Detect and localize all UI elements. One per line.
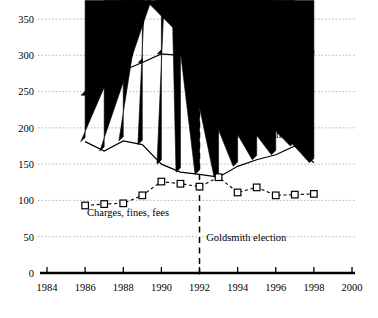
data-point-marker [215,174,222,181]
y-axis-tick-label: 300 [18,50,34,61]
series-label-2: Charges, fines, fees [87,207,169,218]
annotation-labels: Goldsmith election [206,232,287,243]
data-point-marker [272,192,279,199]
data-point-marker [101,201,108,208]
series-label-0: Taxes [87,74,111,85]
x-axis-tick-label: 1986 [75,282,96,293]
data-point-marker [311,191,318,198]
x-axis-tick-label: 1984 [37,282,59,293]
data-point-marker [157,0,164,164]
x-axis-tick-labels: 198419861988199019921994199619982000 [37,282,363,293]
y-axis-tick-label: 100 [18,195,34,206]
data-point-marker [158,178,165,185]
y-axis-tick-label: 50 [24,232,35,243]
x-axis-tick-label: 2000 [342,282,363,293]
data-point-marker [139,192,146,199]
y-axis-tick-label: 350 [18,14,34,25]
data-point-marker [292,191,299,198]
x-axis-tick-label: 1990 [151,282,172,293]
revenue-line-chart: 050100150200250300350 198419861988199019… [0,0,378,318]
x-axis-tick-label: 1988 [113,282,134,293]
data-point-marker [177,180,184,187]
data-point-marker [234,189,241,196]
data-point-marker [196,183,203,190]
y-axis-tick-label: 0 [29,268,34,279]
y-axis-tick-label: 150 [18,159,34,170]
series-label-1: Intergovernmental [227,129,304,140]
data-point-marker [81,91,85,95]
x-axis-tick-label: 1998 [303,282,324,293]
x-axis-tick-label: 1992 [189,282,210,293]
x-axis-tick-label: 1994 [227,282,249,293]
annotation-label-goldsmith-election: Goldsmith election [206,232,287,243]
y-axis-tick-label: 200 [18,123,34,134]
y-axis-tick-labels: 050100150200250300350 [18,14,34,279]
data-point-marker [157,50,161,54]
y-axis-tick-label: 250 [18,86,34,97]
x-axis-tick-label: 1996 [265,282,286,293]
chart-canvas: 050100150200250300350 198419861988199019… [0,0,378,318]
axes-group [40,267,355,273]
data-point-marker [120,200,127,207]
data-point-marker [253,184,260,191]
